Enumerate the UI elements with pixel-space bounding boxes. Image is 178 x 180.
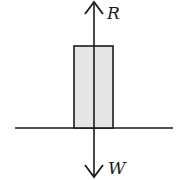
force-label-r: R <box>107 5 120 22</box>
force-label-w: W <box>108 160 125 177</box>
free-body-diagram <box>0 0 178 180</box>
